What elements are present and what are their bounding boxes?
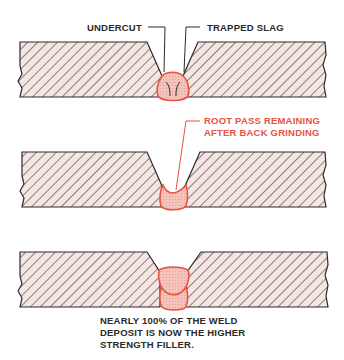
right-plate	[185, 152, 326, 207]
panel-2: ROOT PASS REMAINING AFTER BACK GRINDING	[20, 115, 326, 210]
root-pass-label-line2: AFTER BACK GRINDING	[204, 127, 320, 138]
weld-diagram: UNDERCUT TRAPPED SLAG ROOT PASS REMAININ…	[0, 0, 344, 360]
trapped-slag-label: TRAPPED SLAG	[207, 22, 284, 33]
right-plate	[183, 42, 326, 97]
undercut-label: UNDERCUT	[87, 22, 142, 33]
weld-bead	[157, 72, 189, 100]
caption-line1: NEARLY 100% OF THE WELD	[100, 315, 238, 326]
left-plate	[20, 152, 162, 207]
right-plate	[186, 252, 328, 307]
panel-3: NEARLY 100% OF THE WELD DEPOSIT IS NOW T…	[18, 252, 328, 350]
left-plate	[18, 42, 162, 97]
caption-line3: STRENGTH FILLER.	[100, 339, 194, 350]
caption-line2: DEPOSIT IS NOW THE HIGHER	[100, 327, 245, 338]
panel-1: UNDERCUT TRAPPED SLAG	[18, 22, 326, 101]
root-pass	[160, 185, 188, 210]
root-pass-label-line1: ROOT PASS REMAINING	[204, 115, 320, 126]
left-plate	[18, 252, 160, 307]
